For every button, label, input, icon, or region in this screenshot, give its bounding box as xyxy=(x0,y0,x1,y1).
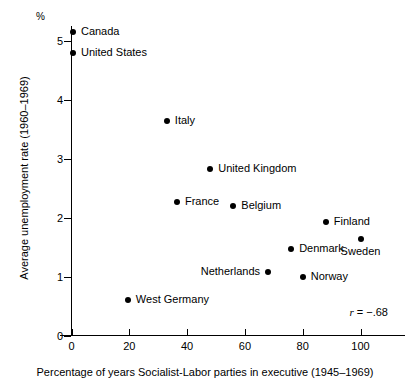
x-axis-tick-label: 20 xyxy=(109,340,149,352)
x-axis-tick-label: 0 xyxy=(52,340,92,352)
y-axis-title: Average unemployment rate (1960–1969) xyxy=(18,28,30,328)
y-axis-line xyxy=(71,26,72,336)
correlation-annotation: r = −.68 xyxy=(349,306,388,318)
y-axis-tick-label-wrap: 1 xyxy=(33,272,63,283)
data-point-label: France xyxy=(185,196,219,207)
x-axis-tick xyxy=(303,329,304,335)
data-point-marker xyxy=(174,199,180,205)
y-axis-tick-label-wrap: 2 xyxy=(33,213,63,224)
data-point-marker xyxy=(265,269,271,275)
data-point-label: Denmark xyxy=(299,243,344,254)
x-axis-tick-label: 100 xyxy=(341,340,381,352)
y-axis-tick-label-wrap: 5 xyxy=(33,36,63,47)
x-axis-tick xyxy=(245,329,246,335)
data-point-marker xyxy=(358,236,364,242)
y-axis-tick xyxy=(64,336,71,337)
data-point-marker xyxy=(207,166,213,172)
y-axis-tick xyxy=(64,218,71,219)
data-point-marker xyxy=(323,219,329,225)
y-axis-tick-label: 5 xyxy=(39,36,63,47)
x-axis-line xyxy=(60,335,405,336)
data-point-label: United Kingdom xyxy=(218,163,296,174)
y-axis-tick-label: 3 xyxy=(39,154,63,165)
data-point-marker xyxy=(300,274,306,280)
data-point-marker xyxy=(70,29,76,35)
y-axis-tick-label-wrap: 4 xyxy=(33,95,63,106)
data-point-label: Canada xyxy=(81,26,120,37)
y-axis-unit-symbol: % xyxy=(36,11,45,22)
y-axis-tick xyxy=(64,277,71,278)
scatter-plot-figure: % 012345 020406080100 CanadaUnited State… xyxy=(0,0,410,392)
data-point-marker xyxy=(70,50,76,56)
data-point-label: Sweden xyxy=(341,246,381,257)
x-axis-title: Percentage of years Socialist-Labor part… xyxy=(0,366,410,378)
y-axis-tick-label: 2 xyxy=(39,213,63,224)
correlation-r-symbol: r xyxy=(349,306,353,318)
data-point-label: Finland xyxy=(334,216,370,227)
y-axis-tick xyxy=(64,100,71,101)
data-point-marker xyxy=(164,118,170,124)
data-point-label: West Germany xyxy=(136,294,209,305)
data-point-label: Netherlands xyxy=(201,266,260,277)
x-axis-tick-label: 80 xyxy=(283,340,323,352)
correlation-value: = −.68 xyxy=(357,306,388,318)
y-axis-tick xyxy=(64,41,71,42)
x-axis-tick-label: 40 xyxy=(167,340,207,352)
data-point-marker xyxy=(230,203,236,209)
y-axis-tick-label-wrap: 3 xyxy=(33,154,63,165)
data-point-label: Norway xyxy=(311,271,348,282)
x-axis-tick-label: 60 xyxy=(225,340,265,352)
y-axis-tick-label: 4 xyxy=(39,95,63,106)
data-point-marker xyxy=(288,246,294,252)
x-axis-tick xyxy=(129,329,130,335)
x-axis-tick xyxy=(361,329,362,335)
data-point-label: Italy xyxy=(175,115,195,126)
y-axis-tick-label: 1 xyxy=(39,272,63,283)
x-axis-tick xyxy=(187,329,188,335)
y-axis-tick xyxy=(64,159,71,160)
data-point-label: United States xyxy=(81,47,147,58)
x-axis-tick xyxy=(72,329,73,335)
data-point-marker xyxy=(125,297,131,303)
data-point-label: Belgium xyxy=(241,200,281,211)
